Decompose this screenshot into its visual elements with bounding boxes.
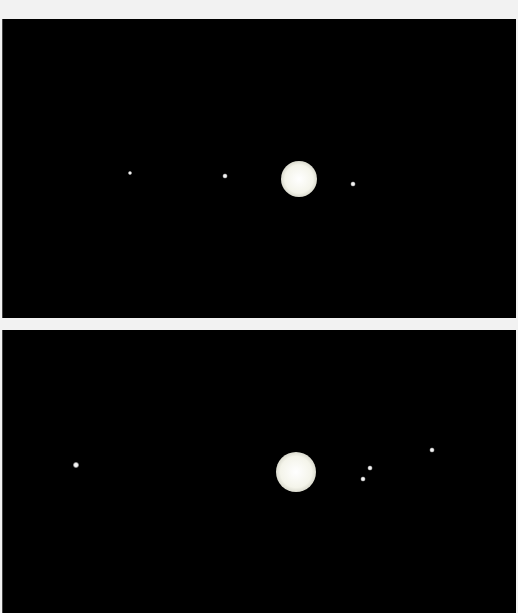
moon: [73, 462, 79, 468]
moon: [430, 448, 435, 453]
moon: [223, 174, 228, 179]
planet: [276, 452, 316, 492]
moon: [361, 477, 366, 482]
top-frame: [2, 19, 516, 318]
moon: [128, 171, 132, 175]
bottom-frame: [2, 330, 516, 613]
moon: [368, 466, 373, 471]
planet: [281, 161, 317, 197]
moon: [351, 182, 356, 187]
